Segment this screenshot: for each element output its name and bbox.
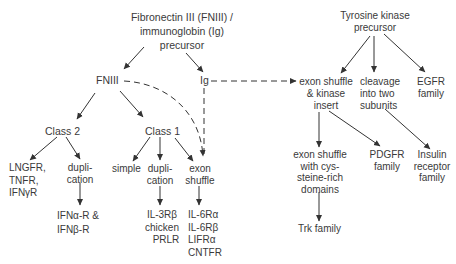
node-text: TNFR, (9, 175, 46, 188)
arrow-class2-lngfr (30, 137, 57, 160)
node-cleavage: cleavage into two subunits (360, 76, 400, 112)
node-ig: Ig (200, 75, 209, 87)
node-il6: IL-6Rα IL-6Rβ LIFRα CNTFR (188, 209, 222, 259)
node-exon-shuffle-class1: exon shuffle (183, 163, 217, 186)
node-text: IL-6Rβ (188, 222, 222, 235)
node-text: precursor (112, 38, 252, 52)
dashed-fniii-exon (124, 81, 203, 156)
node-text: & kinase (296, 88, 356, 100)
arrow-precursor-ig (186, 53, 203, 72)
node-tk-precursor: Tyrosine kinase precursor (335, 10, 415, 34)
node-text: family (412, 172, 452, 184)
node-text: Insulin (412, 149, 452, 161)
node-text: CNTFR (188, 247, 222, 260)
node-text: dupli- (144, 163, 176, 175)
node-text: IFNγR (9, 187, 46, 200)
node-text: IL-3Rβ (143, 209, 181, 222)
node-text: precursor (335, 22, 415, 34)
arrow-fniii-class1 (120, 91, 143, 117)
node-text: PDGFR (367, 149, 407, 161)
node-pdgfr: PDGFR family (367, 149, 407, 172)
arrow-tk-exonkinase (341, 36, 370, 73)
node-duplication-class2: dupli- cation (60, 162, 100, 185)
node-text: immunoglobin (Ig) (112, 24, 252, 38)
node-text: steine-rich (290, 172, 350, 184)
node-text: subunits (360, 100, 400, 112)
arrow-class2-dup (66, 137, 80, 159)
node-text: exon shuffle (296, 76, 356, 88)
node-class1: Class 1 (145, 126, 180, 138)
node-text: Fibronectin III (FNIII) / (112, 10, 252, 24)
node-il3: IL-3Rβ chicken PRLR (143, 209, 181, 247)
node-insulin: Insulin receptor family (412, 149, 452, 184)
node-text: domains (290, 184, 350, 196)
arrow-class1-exon (175, 138, 193, 161)
arrow-class1-simple (133, 137, 150, 161)
node-lngfr: LNGFR, TNFR, IFNγR (9, 162, 46, 200)
node-text: into two (360, 88, 400, 100)
node-text: IL-6Rα (188, 209, 222, 222)
node-text: with cys- (290, 161, 350, 173)
node-text: cation (144, 175, 176, 187)
node-text: exon shuffle (290, 149, 350, 161)
node-text: cation (60, 174, 100, 186)
arrow-cleavage-insulin (385, 109, 430, 149)
node-text: family (367, 161, 407, 173)
node-text: IFNβ-R (57, 223, 99, 237)
node-text: receptor (412, 161, 452, 173)
arrow-fniii-class2 (77, 93, 95, 119)
node-duplication-class1: dupli- cation (144, 163, 176, 186)
node-ifn: IFNα-R & IFNβ-R (57, 209, 99, 237)
node-egfr: EGFR family (414, 76, 448, 100)
node-simple: simple (112, 163, 141, 175)
arrow-exonkinase-pdgfr (329, 111, 380, 146)
node-text: chicken (143, 222, 181, 235)
node-text: insert (296, 100, 356, 112)
arrow-tk-egfr (384, 34, 425, 72)
node-text: family (414, 88, 448, 100)
node-exon-kinase: exon shuffle & kinase insert (296, 76, 356, 112)
node-text: cleavage (360, 76, 400, 88)
node-trk: Trk family (298, 223, 341, 235)
node-fniii: FNIII (96, 75, 119, 87)
node-text: IFNα-R & (57, 209, 99, 223)
node-text: LNGFR, (9, 162, 46, 175)
node-text: exon (183, 163, 217, 175)
node-text: PRLR (143, 234, 181, 247)
node-text: LIFRα (188, 234, 222, 247)
node-class2: Class 2 (45, 126, 80, 138)
node-fn-ig-precursor: Fibronectin III (FNIII) / immunoglobin (… (112, 10, 252, 52)
node-text: shuffle (183, 175, 217, 187)
node-text: Tyrosine kinase (335, 10, 415, 22)
node-text: EGFR (414, 76, 448, 88)
node-text: dupli- (60, 162, 100, 174)
node-exon-cys: exon shuffle with cys- steine-rich domai… (290, 149, 350, 195)
